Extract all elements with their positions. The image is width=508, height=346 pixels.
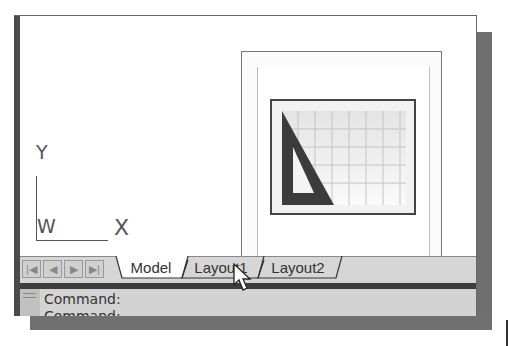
ucs-y-label: Y xyxy=(36,141,48,163)
next-icon: ▶ xyxy=(70,263,78,275)
command-prompt-line1: Command: xyxy=(44,291,121,307)
layout-preview-popup xyxy=(241,51,442,256)
layout-preview-paper xyxy=(257,67,430,257)
tab-model-label: Model xyxy=(131,259,172,276)
last-tab-button[interactable]: ▶| xyxy=(85,260,104,278)
tab-model[interactable]: Model xyxy=(122,257,180,281)
prev-icon: ◀ xyxy=(49,263,57,275)
next-tab-button[interactable]: ▶ xyxy=(64,260,83,278)
window-shadow-right xyxy=(477,32,492,330)
first-tab-button[interactable]: |◀ xyxy=(22,260,41,278)
window-shadow-bottom xyxy=(30,315,492,330)
layout-paper-space-icon xyxy=(270,99,416,215)
tab-layout2-label: Layout2 xyxy=(271,259,324,276)
grid-triangle-icon xyxy=(272,101,414,213)
ucs-x-label: X xyxy=(114,215,129,240)
ucs-icon: Y W X xyxy=(34,141,144,251)
ucs-w-label: W xyxy=(37,215,56,237)
tab-layout2[interactable]: Layout2 xyxy=(262,257,334,281)
mouse-cursor-icon xyxy=(233,263,255,293)
first-icon: |◀ xyxy=(26,263,37,275)
drawing-canvas[interactable]: Y W X xyxy=(20,16,476,256)
command-prompt-line2: Command: xyxy=(44,308,121,316)
last-icon: ▶| xyxy=(89,263,100,275)
prev-tab-button[interactable]: ◀ xyxy=(43,260,62,278)
command-grip-handle[interactable] xyxy=(20,289,40,316)
ucs-x-axis xyxy=(36,240,108,241)
command-line-window[interactable]: Command: Command: xyxy=(20,289,476,316)
